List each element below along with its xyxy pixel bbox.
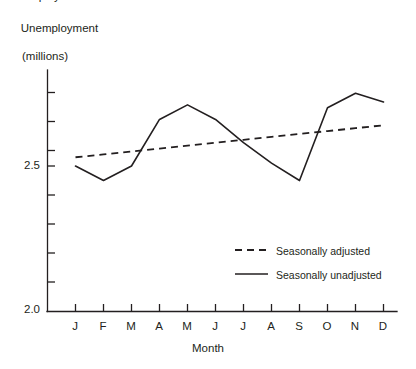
chart-figure: Unemployment Unemployment (millions) 2.5… <box>0 0 416 369</box>
axis-lines <box>47 70 397 312</box>
x-axis-ticks <box>76 304 384 312</box>
y-axis-ticks <box>48 93 56 283</box>
series-line-seasonally-unadjusted <box>76 93 384 180</box>
chart-plot-area <box>0 0 416 369</box>
